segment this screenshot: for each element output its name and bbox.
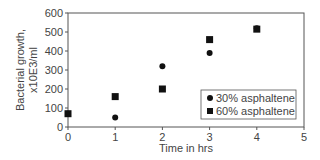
y-axis-ticks: 0100200300400500600	[45, 7, 68, 133]
data-point	[112, 115, 118, 121]
svg-text:600: 600	[45, 7, 63, 19]
svg-text:4: 4	[254, 131, 260, 143]
x-axis-ticks: 012345	[65, 127, 307, 143]
svg-text:300: 300	[45, 64, 63, 76]
y-axis-label: Bacterial growth, x10E3/ml	[14, 29, 39, 111]
data-point	[159, 63, 165, 69]
legend-circle-icon	[207, 95, 213, 101]
legend-square-icon	[207, 108, 213, 114]
legend-label-30: 30% asphaltene	[216, 92, 295, 104]
svg-text:0: 0	[65, 131, 71, 143]
data-point	[206, 36, 213, 43]
svg-text:x10E3/ml: x10E3/ml	[27, 47, 39, 93]
data-point	[207, 50, 213, 56]
data-point	[159, 86, 166, 93]
svg-text:500: 500	[45, 26, 63, 38]
legend-label-60: 60% asphaltene	[216, 105, 295, 117]
svg-text:Bacterial growth,: Bacterial growth,	[14, 29, 26, 111]
svg-text:5: 5	[301, 131, 307, 143]
data-point	[112, 93, 119, 100]
svg-text:400: 400	[45, 45, 63, 57]
scatter-chart: 0100200300400500600 012345 Time in hrs B…	[0, 0, 320, 160]
x-axis-label: Time in hrs	[159, 142, 213, 154]
legend: 30% asphaltene 60% asphaltene	[201, 90, 296, 119]
svg-text:100: 100	[45, 102, 63, 114]
data-point	[65, 110, 72, 117]
data-point	[253, 26, 260, 33]
svg-text:0: 0	[57, 121, 63, 133]
svg-text:200: 200	[45, 83, 63, 95]
svg-text:1: 1	[112, 131, 118, 143]
